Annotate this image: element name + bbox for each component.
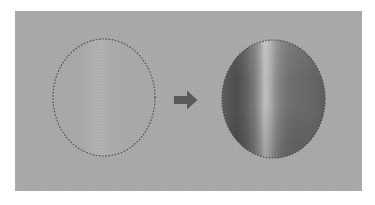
right-arrow-icon xyxy=(174,90,198,110)
filled-elliptical-selection[interactable] xyxy=(222,40,325,158)
elliptical-marquee-selection[interactable] xyxy=(53,39,155,156)
image-canvas xyxy=(15,11,362,191)
before-label: Empty elliptical selection xyxy=(0,0,1,1)
marching-ants-icon xyxy=(51,37,157,158)
gradient-fill xyxy=(222,40,325,158)
figure-root: Gradient fill applied inside an elliptic… xyxy=(0,0,375,205)
figure-title: Gradient fill applied inside an elliptic… xyxy=(0,0,1,1)
after-label: Selection filled with reflected gradient xyxy=(0,0,1,1)
